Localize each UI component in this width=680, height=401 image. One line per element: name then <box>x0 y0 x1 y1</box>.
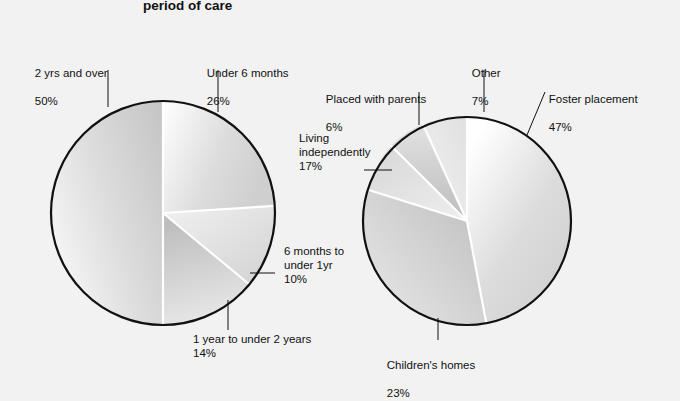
label-foster-placement-text: Foster placement <box>549 93 638 105</box>
label-under-6-months: Under 6 months 26% <box>194 52 289 122</box>
label-foster-placement-value: 47% <box>549 121 572 133</box>
label-childrens-homes-text: Children's homes <box>387 359 476 371</box>
slice-2-yrs-and-over <box>51 101 163 325</box>
label-foster-placement: Foster placement 47% <box>536 78 638 148</box>
label-under-6-months-value: 26% <box>207 95 230 107</box>
pie-right <box>363 117 571 325</box>
label-6-months-to-under-1yr: 6 months to under 1yr 10% <box>284 244 344 286</box>
label-living-independently: Living independently 17% <box>299 131 371 173</box>
label-other: Other 7% <box>459 52 501 122</box>
label-under-6-months-text: Under 6 months <box>207 67 289 79</box>
label-other-text: Other <box>472 67 501 79</box>
chart-title-left: period of care <box>143 0 232 13</box>
pie-left <box>51 101 275 325</box>
label-2-yrs-and-over-value: 50% <box>35 95 58 107</box>
label-placed-with-parents-text: Placed with parents <box>326 93 426 105</box>
label-1-year-to-under-2-years: 1 year to under 2 years 14% <box>193 332 311 360</box>
label-childrens-homes-value: 23% <box>387 387 410 399</box>
label-2-yrs-and-over-text: 2 yrs and over <box>35 67 108 79</box>
label-2-yrs-and-over: 2 yrs and over 50% <box>22 52 108 122</box>
label-childrens-homes: Children's homes 23% <box>374 344 475 401</box>
label-other-value: 7% <box>472 95 489 107</box>
